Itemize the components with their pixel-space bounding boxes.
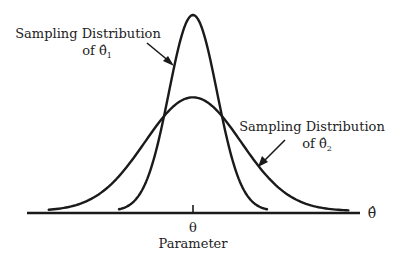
- series-2-label-subscript: 2: [327, 144, 332, 153]
- x-axis-label: θ̂: [368, 205, 376, 221]
- series-1-label-line2: of θ̂1: [82, 43, 112, 60]
- parameter-tick-label: θ: [189, 220, 197, 235]
- sampling-distribution-diagram: θ̂ θ Parameter Sampling Distribution of …: [0, 0, 417, 263]
- series-1-label-line1: Sampling Distribution: [15, 26, 161, 41]
- series-2-label-line1: Sampling Distribution: [239, 119, 385, 134]
- sampling-distribution-1-curve: [119, 15, 267, 209]
- series-1-label-subscript: 1: [107, 51, 112, 60]
- series-1-label-prefix: of θ̂: [82, 43, 107, 58]
- series-2-label-prefix: of θ̂: [302, 136, 327, 151]
- series-2-label-line2: of θ̂2: [302, 136, 332, 153]
- sampling-distribution-2-curve: [49, 97, 349, 210]
- parameter-caption: Parameter: [158, 236, 228, 251]
- series-2-arrow: [263, 140, 285, 162]
